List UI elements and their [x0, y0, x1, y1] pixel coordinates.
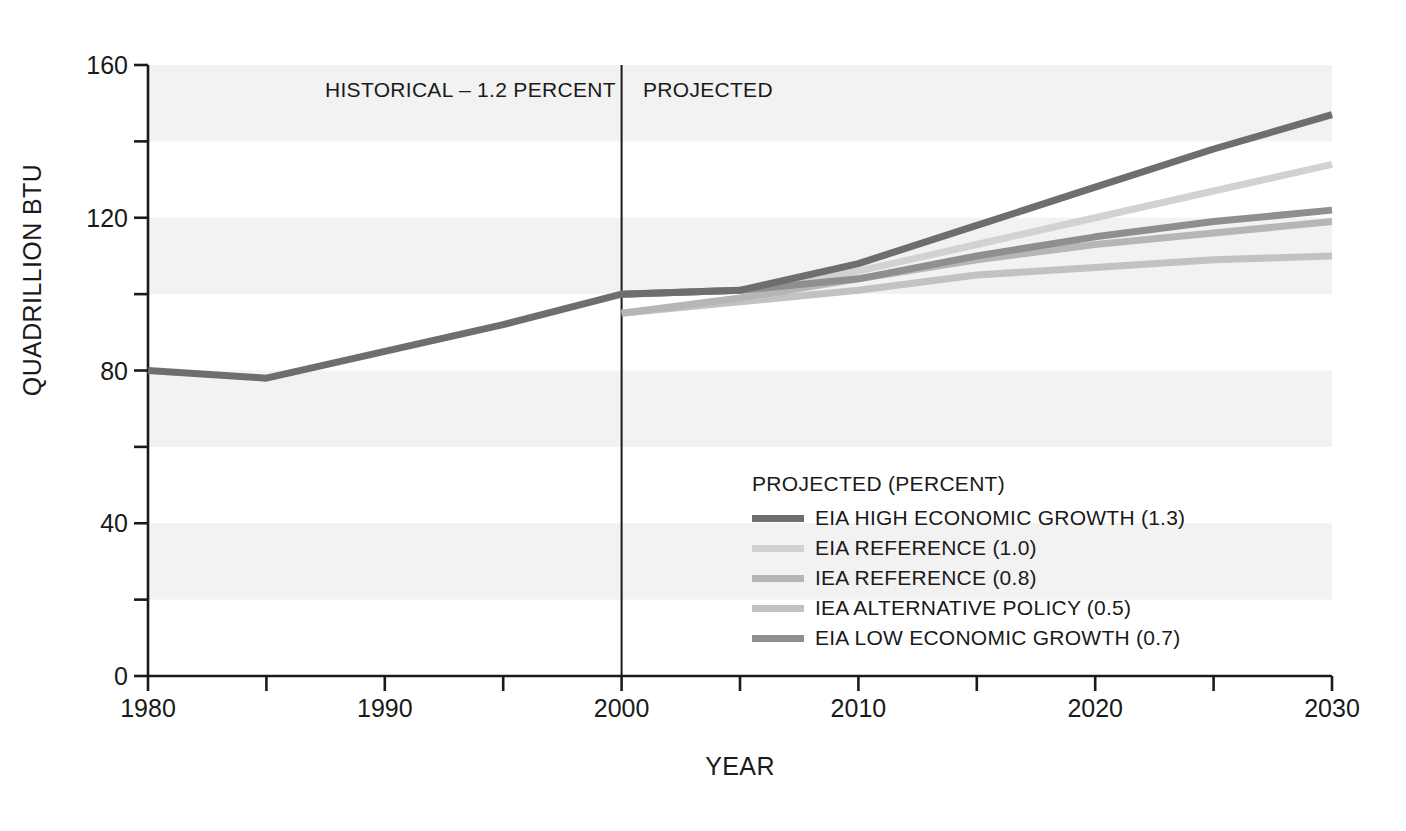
background-band: [148, 371, 1332, 447]
legend-color-swatch: [752, 545, 804, 552]
background-band: [148, 65, 1332, 141]
legend: PROJECTED (PERCENT) EIA HIGH ECONOMIC GR…: [752, 472, 1185, 653]
legend-items: EIA HIGH ECONOMIC GROWTH (1.3)EIA REFERE…: [752, 503, 1185, 653]
legend-item: IEA REFERENCE (0.8): [752, 563, 1185, 593]
x-axis-tick-label: 1990: [315, 694, 455, 723]
series-line: [148, 294, 622, 378]
legend-color-swatch: [752, 575, 804, 582]
x-axis-ticks: [148, 676, 1332, 691]
legend-item-label: EIA REFERENCE (1.0): [815, 536, 1037, 560]
legend-item-label: EIA LOW ECONOMIC GROWTH (0.7): [815, 626, 1180, 650]
legend-color-swatch: [752, 635, 804, 642]
legend-color-swatch: [752, 515, 804, 522]
x-axis-tick-label: 1980: [78, 694, 218, 723]
chart-canvas: QUADRILLION BTU 04080120160 198019902000…: [0, 0, 1406, 831]
legend-item-label: EIA HIGH ECONOMIC GROWTH (1.3): [815, 506, 1185, 530]
x-axis-tick-label: 2000: [552, 694, 692, 723]
x-axis-tick-label: 2010: [788, 694, 928, 723]
y-axis-ticks: [134, 65, 148, 676]
annotation-projected: PROJECTED: [643, 78, 773, 102]
x-axis-title: YEAR: [148, 752, 1332, 781]
legend-color-swatch: [752, 605, 804, 612]
legend-item: EIA HIGH ECONOMIC GROWTH (1.3): [752, 503, 1185, 533]
legend-item-label: IEA REFERENCE (0.8): [815, 566, 1037, 590]
x-axis-tick-label: 2020: [1025, 694, 1165, 723]
legend-item: IEA ALTERNATIVE POLICY (0.5): [752, 593, 1185, 623]
legend-item-label: IEA ALTERNATIVE POLICY (0.5): [815, 596, 1131, 620]
legend-item: EIA LOW ECONOMIC GROWTH (0.7): [752, 623, 1185, 653]
x-axis-tick-label: 2030: [1262, 694, 1402, 723]
legend-item: EIA REFERENCE (1.0): [752, 533, 1185, 563]
legend-title: PROJECTED (PERCENT): [752, 472, 1185, 496]
annotation-historical: HISTORICAL – 1.2 PERCENT: [325, 78, 616, 102]
